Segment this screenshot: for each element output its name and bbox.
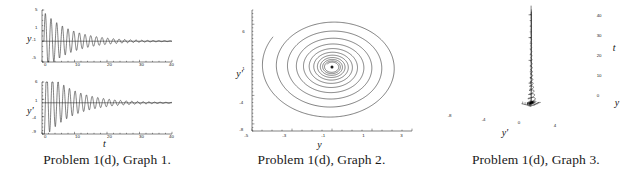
figure-panel-graph-1: y y' t 5 1 -1 -5 0 10 20 30 40 6 1 -4 -9… [0, 0, 214, 184]
xtick-2: -1 [321, 133, 325, 138]
plot-area-graph-1: y y' t 5 1 -1 -5 0 10 20 30 40 6 1 -4 -9… [0, 0, 214, 152]
xtick-0: -5 [244, 133, 248, 138]
xtick-bottom-1: 10 [75, 134, 80, 139]
ytick-top-1: 1 [35, 25, 37, 30]
axis-label-y: y [615, 97, 619, 108]
caption-graph-3: Problem 1(d), Graph 3. [472, 152, 600, 168]
ytick-0: 6 [242, 29, 244, 34]
caption-graph-2: Problem 1(d), Graph 2. [258, 152, 386, 168]
ytick-bottom-3: -9 [32, 129, 36, 134]
ytick-bottom-0: 6 [35, 79, 37, 84]
ytick-top-3: -5 [32, 55, 36, 60]
figure-row: y y' t 5 1 -1 -5 0 10 20 30 40 6 1 -4 -9… [0, 0, 643, 184]
axis-label-t: t [613, 42, 616, 53]
ztick-2: 20 [597, 53, 602, 58]
xtick-3: 1 [362, 133, 364, 138]
caption-graph-1: Problem 1(d), Graph 1. [43, 152, 171, 168]
xtick-bottom-4: 40 [169, 134, 174, 139]
ytick-1: 1 [242, 66, 244, 71]
xtick-1: -3 [282, 133, 286, 138]
axis-label-y-prime: y' [502, 127, 509, 138]
xtick-bottom-3: 30 [139, 134, 144, 139]
plot-area-graph-2: y' y 6 1 -4 -8 -5 -3 -1 1 3 [214, 0, 428, 152]
figure-panel-graph-2: y' y 6 1 -4 -8 -5 -3 -1 1 3 Problem 1(d)… [214, 0, 428, 184]
figure-panel-graph-3: t y y' 40 30 20 10 0 -8 -4 0 4 Problem 1… [429, 0, 643, 184]
xtick-top-1: 10 [75, 62, 80, 67]
xtick-3: 4 [554, 123, 556, 128]
axis-label-t: t [103, 138, 106, 149]
xtick-0: -8 [448, 113, 452, 118]
xtick-1: -4 [482, 117, 486, 122]
xtick-top-3: 30 [139, 62, 144, 67]
ztick-4: 0 [597, 93, 599, 98]
xtick-bottom-0: 0 [44, 134, 46, 139]
xtick-top-0: 0 [44, 62, 46, 67]
chart-graph-3 [429, 0, 643, 152]
xtick-top-2: 20 [107, 62, 112, 67]
ytick-2: -4 [239, 100, 243, 105]
axis-label-y: y [27, 33, 31, 44]
ytick-3: -8 [239, 127, 243, 132]
ytick-top-2: -1 [32, 37, 36, 42]
xtick-bottom-2: 20 [107, 134, 112, 139]
ztick-3: 10 [597, 73, 602, 78]
axis-label-y: y [317, 139, 321, 150]
xtick-2: 0 [518, 120, 520, 125]
chart-graph-2 [214, 0, 428, 152]
ytick-bottom-1: 1 [35, 98, 37, 103]
ztick-1: 30 [597, 33, 602, 38]
xtick-top-4: 40 [169, 62, 174, 67]
xtick-4: 3 [400, 133, 402, 138]
plot-area-graph-3: t y y' 40 30 20 10 0 -8 -4 0 4 [429, 0, 643, 152]
ytick-bottom-2: -4 [32, 115, 36, 120]
ztick-0: 40 [597, 13, 602, 18]
ytick-top-0: 5 [35, 7, 37, 12]
